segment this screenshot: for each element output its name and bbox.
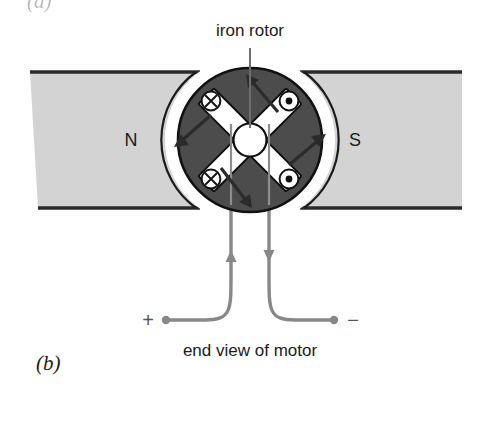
panel-label-b: (b) — [36, 351, 61, 375]
terminal-dot-negative — [330, 316, 338, 324]
wire-negative-current-arrow — [264, 250, 275, 262]
panel-label-partial-top: (a) — [27, 0, 52, 13]
terminal-sign-negative: − — [347, 309, 359, 331]
dot-icon — [286, 98, 293, 105]
coil-marker-top-left — [202, 92, 221, 111]
coil-marker-top-right — [280, 92, 299, 111]
motor-end-view-diagram: (a) N S — [0, 0, 478, 421]
iron-rotor-caption: iron rotor — [216, 21, 284, 40]
pole-label-south: S — [349, 130, 361, 150]
panel-label-partial-text: (a) — [27, 0, 52, 13]
pole-piece-left — [30, 72, 200, 208]
wire-current-arrows — [226, 250, 275, 262]
pole-left-body — [30, 72, 200, 208]
coil-marker-bottom-right — [280, 170, 299, 189]
terminal-sign-positive: + — [142, 309, 154, 331]
rotor-shaft-hub — [234, 124, 267, 157]
terminal-dot-positive — [162, 316, 170, 324]
figure-page: (a) N S — [0, 0, 478, 421]
pole-label-north: N — [125, 130, 138, 150]
coil-marker-bottom-left — [202, 170, 221, 189]
wire-positive-current-arrow — [226, 250, 237, 262]
end-view-caption: end view of motor — [183, 341, 318, 360]
dot-icon — [286, 176, 293, 183]
